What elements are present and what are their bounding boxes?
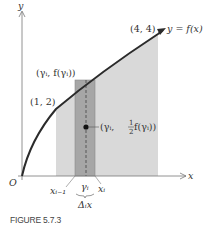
- curve-label: y = f(x): [166, 23, 203, 34]
- tick-label-mid: γᵢ: [81, 181, 89, 192]
- point-start-label: (1, 2): [30, 96, 56, 107]
- delta-brace: [76, 194, 94, 198]
- figure-canvas: y x O (4, 4) y = f(x) (γᵢ, f(γᵢ)) (1, 2)…: [0, 0, 211, 232]
- centroid-frac-num: 1: [129, 119, 133, 127]
- x-axis-label: x: [188, 170, 194, 181]
- figure-caption: FIGURE 5.7.3: [10, 215, 61, 225]
- tick-leader-left: [66, 176, 75, 187]
- centroid-point: [83, 124, 88, 129]
- tick-label-right: xᵢ: [98, 183, 105, 194]
- point-end-label: (4, 4): [130, 23, 156, 34]
- y-axis-label: y: [17, 0, 24, 11]
- centroid-label-suffix: f(γᵢ)): [134, 121, 156, 132]
- centroid-frac-den: 2: [129, 128, 133, 136]
- origin-label: O: [9, 177, 17, 188]
- shaded-region: [56, 34, 158, 176]
- tick-label-width: Δᵢx: [77, 199, 93, 210]
- centroid-label-prefix: (γᵢ,: [100, 121, 114, 132]
- point-sample-label: (γᵢ, f(γᵢ)): [36, 67, 76, 78]
- tick-label-left: xᵢ₋₁: [50, 185, 66, 196]
